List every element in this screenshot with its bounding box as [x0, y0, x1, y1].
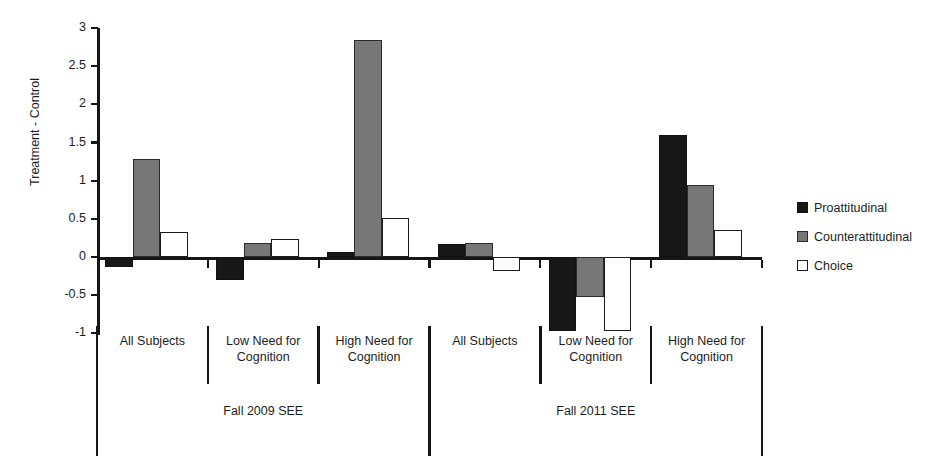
bar — [382, 218, 410, 257]
bar — [493, 257, 521, 271]
y-axis-tick-label: 1.5 — [44, 136, 86, 149]
chart-legend: ProattitudinalCounterattitudinalChoice — [797, 193, 912, 280]
bar — [105, 257, 133, 267]
legend-item-label: Proattitudinal — [814, 201, 887, 215]
y-axis-tick-label: 0 — [44, 250, 86, 263]
category-label: All Subjects — [97, 334, 208, 350]
bar — [465, 243, 493, 257]
bar — [271, 239, 299, 257]
category-label: All Subjects — [430, 334, 541, 350]
bar — [604, 257, 632, 331]
y-axis-tick-label: -0.5 — [44, 288, 86, 301]
y-axis-tick-label: 2.5 — [44, 59, 86, 72]
legend-item-label: Counterattitudinal — [814, 230, 912, 244]
y-axis-tick-label: 1 — [44, 174, 86, 187]
category-label: High Need forCognition — [651, 334, 762, 365]
legend-item-label: Choice — [814, 259, 853, 273]
group-label: Fall 2011 SEE — [430, 404, 763, 419]
bar — [549, 257, 577, 331]
bar — [438, 244, 466, 257]
y-axis-title: Treatment - Control — [28, 42, 42, 222]
bar — [244, 243, 272, 257]
y-axis-tick-label: 2 — [44, 97, 86, 110]
bar — [133, 159, 161, 257]
bar — [354, 40, 382, 257]
legend-swatch-icon — [797, 202, 808, 213]
bar — [687, 185, 715, 257]
bar — [576, 257, 604, 297]
group-label: Fall 2009 SEE — [97, 404, 430, 419]
category-label: Low Need forCognition — [208, 334, 319, 365]
y-axis-tick-label: 3 — [44, 21, 86, 34]
bar-chart-figure: Treatment - Control 32.521.510.50-0.5-1 … — [0, 0, 947, 476]
bar — [714, 230, 742, 257]
legend-item: Counterattitudinal — [797, 222, 912, 251]
bar — [216, 257, 244, 280]
category-label: Low Need forCognition — [540, 334, 651, 365]
legend-item: Choice — [797, 251, 912, 280]
bar — [327, 252, 355, 257]
legend-swatch-icon — [797, 260, 808, 271]
bar — [160, 232, 188, 257]
legend-item: Proattitudinal — [797, 193, 912, 222]
bar — [659, 135, 687, 257]
y-axis-tick-label: -1 — [44, 326, 86, 339]
legend-swatch-icon — [797, 231, 808, 242]
plot-area — [97, 28, 762, 335]
y-axis-tick-label: 0.5 — [44, 212, 86, 225]
category-label: High Need forCognition — [319, 334, 430, 365]
